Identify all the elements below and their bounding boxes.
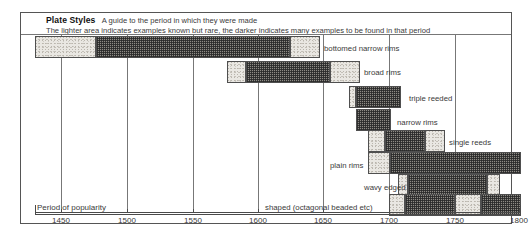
bar-segment [356,109,391,131]
segment-rare [350,87,355,107]
bar-segment [349,86,356,108]
bar-label: single reeds [449,138,491,148]
axis-tick-label: 1700 [380,216,398,225]
plate-styles-chart: Plate Styles A guide to the period in wh… [0,0,532,249]
axis-tick-label: 1650 [314,216,332,225]
bar-label: broad rims [364,68,401,78]
bar-label: narrow rims [397,118,438,128]
axis-title: Period of popularity [37,203,106,212]
bar-segment [408,174,487,196]
axis-tick-label: 1800 [510,216,528,225]
segment-rare [369,131,384,151]
axis-tick [258,209,259,213]
bar-segment [246,61,330,83]
bar-segment [96,36,290,58]
bar-segment [290,36,320,58]
axis-cap-right [520,205,521,214]
axis-tick [389,209,390,213]
segment-rare [291,37,319,57]
segment-common [247,62,329,82]
axis-tick-label: 1450 [52,216,70,225]
bar-segment [227,61,246,83]
bar-label: plain rims [330,161,363,171]
segment-common [97,37,289,57]
bar-segment [368,130,385,152]
bar-segment [390,152,521,174]
header-divider [21,34,511,35]
bar-segment [487,174,500,196]
axis-tick [455,209,456,213]
segment-rare [331,62,359,82]
segment-common [409,175,486,195]
header-subtitle: A guide to the period in which they were… [102,16,257,25]
segment-rare [426,131,444,151]
axis-tick [519,209,520,213]
bar-segment [368,152,390,174]
axis-tick [61,209,62,213]
page-title: Plate Styles [46,15,95,25]
segment-rare [228,62,245,82]
bar-segment [385,130,425,152]
axis-tick-label: 1600 [249,216,267,225]
axis-tick [193,209,194,213]
axis-baseline-shadow [35,214,521,215]
gridline-1500 [127,35,128,212]
chart-header: Plate Styles A guide to the period in wh… [21,13,511,35]
axis-tick-label: 1550 [184,216,202,225]
axis-tick [323,209,324,213]
bar-segment [330,61,360,83]
segment-rare [369,153,389,173]
bar-segment [35,36,96,58]
segment-common [391,153,520,173]
axis-cap-left [35,205,36,214]
bar-segment [425,130,445,152]
axis-tick-label: 1500 [118,216,136,225]
gridline-1450 [61,35,62,212]
segment-rare [36,37,95,57]
axis-tick [127,209,128,213]
gridline-1550 [193,35,194,212]
axis-tick-label: 1750 [446,216,464,225]
segment-common [357,110,390,130]
segment-rare [488,175,499,195]
bar-segment [356,86,401,108]
bar-label: wavy edged [364,183,406,193]
segment-common [386,131,424,151]
header-title-line: Plate Styles A guide to the period in wh… [46,15,511,26]
axis-baseline [35,212,521,213]
segment-common [357,87,400,107]
bar-label: triple reeded [409,94,452,104]
bar-label: bottomed narrow rims [324,44,399,54]
